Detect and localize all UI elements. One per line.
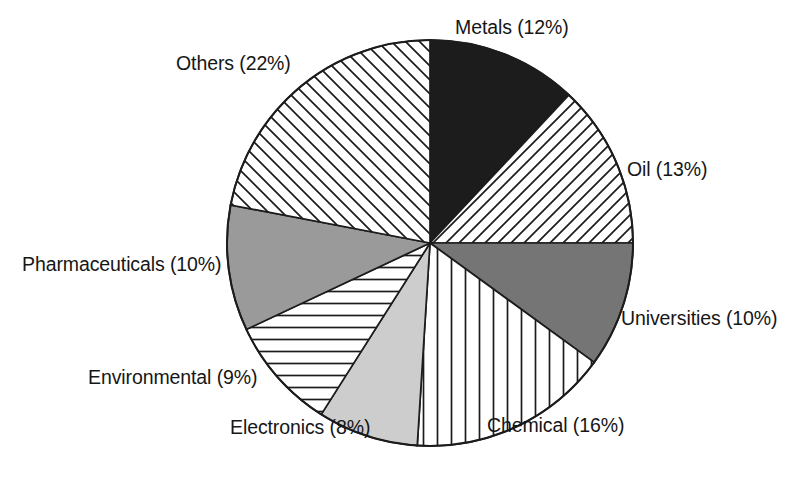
- pie-slices-group: [227, 40, 633, 446]
- slice-label-pharmaceuticals: Pharmaceuticals (10%): [22, 255, 221, 275]
- slice-label-others: Others (22%): [176, 54, 291, 74]
- slice-label-chemical: Chemical (16%): [487, 416, 624, 436]
- pie-chart-svg: [0, 0, 793, 481]
- slice-label-electronics: Electronics (8%): [230, 418, 370, 438]
- slice-label-metals: Metals (12%): [455, 18, 569, 38]
- slice-label-universities: Universities (10%): [621, 309, 777, 329]
- pie-chart-figure: Metals (12%) Oil (13%) Universities (10%…: [0, 0, 793, 481]
- slice-label-oil: Oil (13%): [627, 160, 707, 180]
- slice-label-environmental: Environmental (9%): [88, 368, 257, 388]
